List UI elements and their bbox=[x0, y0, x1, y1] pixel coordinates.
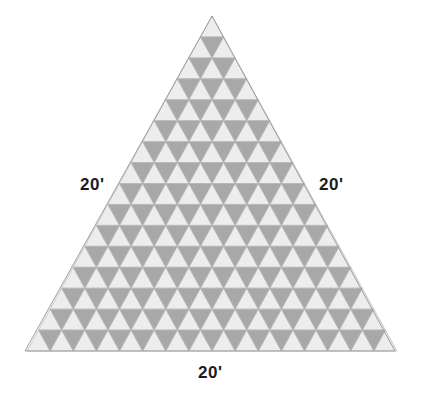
triangle-grid-figure bbox=[0, 0, 424, 396]
dimension-label-right: 20' bbox=[319, 176, 343, 193]
dimension-label-left: 20' bbox=[80, 176, 104, 193]
grid-cell bbox=[200, 16, 223, 37]
dimension-label-bottom: 20' bbox=[198, 364, 222, 381]
diagram-canvas: 20' 20' 20' bbox=[0, 0, 424, 396]
